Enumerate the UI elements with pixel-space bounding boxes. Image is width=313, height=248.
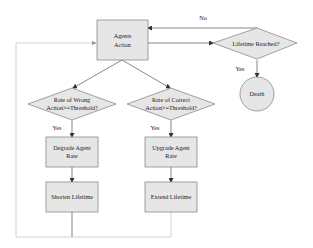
loop-arrowhead — [92, 41, 97, 45]
edge-label-yes-correct: Yes — [150, 124, 160, 131]
flowchart-canvas: Agents Action Lifetime Reached? No Death… — [0, 0, 313, 248]
wrong-rate-line2: Action>=Threshold? — [46, 104, 98, 111]
node-agents-action: Agents Action — [97, 20, 148, 60]
edge-label-yes-death: Yes — [235, 65, 245, 72]
edge-label-no: No — [199, 14, 207, 21]
node-shorten: Shorten Lifetime — [46, 182, 98, 212]
upgrade-line2: Rate — [165, 152, 177, 159]
node-upgrade: Upgrade Agent Rate — [145, 137, 197, 167]
agents-action-line1: Agents — [114, 32, 132, 39]
upgrade-line1: Upgrade Agent — [152, 144, 190, 151]
edge-agents-to-wrong — [73, 60, 122, 88]
node-extend: Extend Lifetime — [145, 182, 197, 212]
degrade-line1: Degrade Agent — [53, 144, 91, 151]
degrade-line2: Rate — [66, 152, 78, 159]
correct-rate-line1: Rate of Correct — [152, 96, 190, 103]
node-degrade: Degrade Agent Rate — [46, 137, 98, 167]
agents-action-line2: Action — [114, 41, 131, 48]
node-correct-rate: Rate of Correct Action>=Threshold? — [127, 88, 215, 120]
node-lifetime-reached: Lifetime Reached? — [213, 28, 297, 59]
wrong-rate-line1: Rate of Wrong — [54, 96, 90, 103]
extend-label: Extend Lifetime — [151, 193, 192, 200]
death-label: Death — [250, 90, 266, 97]
lifetime-reached-label: Lifetime Reached? — [233, 40, 280, 47]
node-wrong-rate: Rate of Wrong Action>=Threshold? — [28, 88, 116, 120]
edge-agents-to-correct — [122, 60, 170, 88]
shorten-label: Shorten Lifetime — [51, 193, 93, 200]
edge-label-yes-wrong: Yes — [52, 124, 62, 131]
node-death: Death — [240, 77, 274, 111]
correct-rate-line2: Action>=Threshold? — [145, 104, 197, 111]
